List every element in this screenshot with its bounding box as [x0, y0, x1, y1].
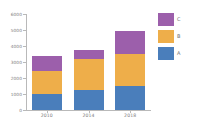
- y-tick-mark: [23, 78, 26, 79]
- legend-item-a[interactable]: A: [158, 45, 198, 62]
- legend-swatch-b: [158, 30, 174, 43]
- y-tick-label: 3000: [11, 60, 22, 65]
- bar-segment-b[interactable]: [115, 54, 145, 86]
- chart-legend: CBA: [158, 11, 198, 62]
- bar-segment-a[interactable]: [74, 90, 104, 110]
- y-tick-mark: [23, 110, 26, 111]
- x-tick-label: 2010: [41, 113, 53, 118]
- y-tick-mark: [23, 30, 26, 31]
- legend-label: A: [177, 51, 180, 56]
- bar-group[interactable]: [115, 14, 145, 110]
- plot-area: 0100020003000400050006000 201020142018: [26, 14, 151, 110]
- y-tick-mark: [23, 62, 26, 63]
- bar-segment-b[interactable]: [32, 71, 62, 94]
- y-axis-line: [26, 14, 27, 110]
- y-tick-label: 0: [19, 108, 22, 113]
- bar-group[interactable]: [32, 14, 62, 110]
- bar-segment-a[interactable]: [32, 94, 62, 110]
- x-tick-label: 2018: [124, 113, 136, 118]
- y-tick-label: 4000: [11, 44, 22, 49]
- legend-swatch-a: [158, 47, 174, 60]
- legend-label: C: [177, 17, 181, 22]
- legend-item-b[interactable]: B: [158, 28, 198, 45]
- x-tick-label: 2014: [82, 113, 94, 118]
- y-tick-mark: [23, 46, 26, 47]
- bar-group[interactable]: [74, 14, 104, 110]
- bar-segment-b[interactable]: [74, 59, 104, 90]
- bar-segment-c[interactable]: [32, 56, 62, 71]
- legend-label: B: [177, 34, 180, 39]
- y-tick-label: 1000: [11, 92, 22, 97]
- legend-item-c[interactable]: C: [158, 11, 198, 28]
- stacked-bar-chart: 0100020003000400050006000 201020142018 C…: [0, 0, 199, 129]
- y-tick-label: 2000: [11, 76, 22, 81]
- legend-swatch-c: [158, 13, 174, 26]
- y-tick-mark: [23, 94, 26, 95]
- y-tick-mark: [23, 14, 26, 15]
- y-tick-label: 6000: [11, 12, 22, 17]
- bar-segment-c[interactable]: [115, 31, 145, 54]
- bar-segment-c[interactable]: [74, 50, 104, 59]
- bar-segment-a[interactable]: [115, 86, 145, 110]
- y-tick-label: 5000: [11, 28, 22, 33]
